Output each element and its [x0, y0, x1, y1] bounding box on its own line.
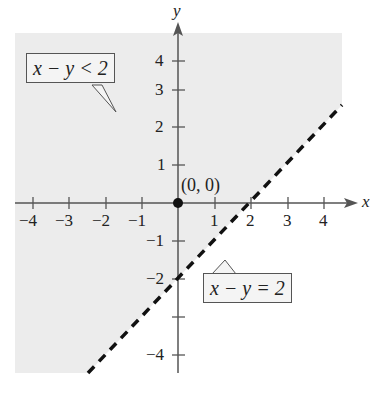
origin-label: (0, 0)	[181, 176, 220, 194]
equation-callout-tail	[212, 260, 236, 274]
xtick-label: −3	[55, 212, 73, 229]
xtick-label: −2	[92, 212, 110, 229]
ytick-label: −2	[146, 270, 164, 287]
inequality-text: x − y < 2	[33, 57, 108, 79]
inequality-callout: x − y < 2	[26, 53, 115, 83]
ytick-label: −1	[146, 232, 164, 249]
equation-text: x − y = 2	[210, 277, 285, 299]
origin-point	[173, 198, 183, 208]
xtick-label: −4	[19, 212, 37, 229]
xtick-label: 2	[246, 212, 255, 229]
ytick-label: 2	[155, 118, 164, 135]
equation-callout: x − y = 2	[203, 273, 292, 303]
ytick-label: 3	[155, 81, 164, 98]
ytick-label: 4	[155, 52, 164, 69]
x-axis-label: x	[362, 193, 370, 210]
xtick-label: −1	[128, 212, 146, 229]
ytick-label: 1	[157, 156, 166, 173]
xtick-label: 1	[210, 212, 219, 229]
xtick-label: 4	[319, 212, 328, 229]
y-axis-label: y	[173, 2, 181, 19]
xtick-label: 3	[283, 212, 292, 229]
ytick-label: −4	[146, 346, 164, 363]
